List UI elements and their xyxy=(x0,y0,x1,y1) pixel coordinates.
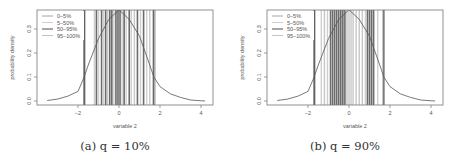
density-plot-a: −20240.00.10.20.3variable 2probability d… xyxy=(0,0,230,140)
x-tick-label: −2 xyxy=(75,110,81,116)
y-tick-label: 0.1 xyxy=(26,73,32,81)
x-tick-label: 0 xyxy=(117,110,120,116)
legend-label: 5–50% xyxy=(287,20,304,26)
y-tick-label: 0.3 xyxy=(26,25,32,33)
x-tick-label: 4 xyxy=(429,110,432,116)
x-axis-label: variable 2 xyxy=(113,123,137,129)
legend: 0–5%5–50%50–95%95–100% xyxy=(38,11,84,40)
x-tick-label: 2 xyxy=(158,110,161,116)
x-tick-label: 2 xyxy=(388,110,391,116)
x-tick-label: 0 xyxy=(347,110,350,116)
legend-label: 95–100% xyxy=(57,33,80,39)
legend-label: 50–95% xyxy=(57,26,77,32)
caption-b: (b) q = 90% xyxy=(230,139,460,153)
y-tick-label: 0.0 xyxy=(26,97,32,105)
legend: 0–5%5–50%50–95%95–100% xyxy=(268,11,314,40)
panel-a: −20240.00.10.20.3variable 2probability d… xyxy=(0,0,230,166)
x-tick-label: 4 xyxy=(199,110,202,116)
y-tick-label: 0.0 xyxy=(256,97,262,105)
panel-b: −20240.00.10.20.3variable 2probability d… xyxy=(230,0,460,166)
y-axis-label: probability density xyxy=(9,35,15,79)
legend-label: 95–100% xyxy=(287,33,310,39)
legend-label: 0–5% xyxy=(57,13,71,19)
y-tick-label: 0.1 xyxy=(256,73,262,81)
x-tick-label: −2 xyxy=(305,110,311,116)
y-tick-label: 0.3 xyxy=(256,25,262,33)
legend-label: 0–5% xyxy=(287,13,301,19)
density-plot-b: −20240.00.10.20.3variable 2probability d… xyxy=(230,0,460,140)
x-axis-label: variable 2 xyxy=(343,123,367,129)
caption-a: (a) q = 10% xyxy=(0,139,230,153)
y-tick-label: 0.2 xyxy=(26,49,32,57)
legend-label: 5–50% xyxy=(57,20,74,26)
y-axis-label: probability density xyxy=(239,35,245,79)
y-tick-label: 0.2 xyxy=(256,49,262,57)
legend-label: 50–95% xyxy=(287,26,307,32)
